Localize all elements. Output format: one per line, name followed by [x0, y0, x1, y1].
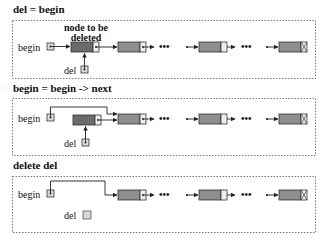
- panel-begin-equals-begin-next: begin = begin -> next begin del •••: [13, 82, 316, 156]
- panel-title: del = begin: [13, 3, 65, 15]
- del-label: del: [64, 138, 76, 149]
- node-to-delete: [71, 42, 99, 52]
- ellipsis: •••: [159, 113, 170, 124]
- annotation-deleted: deleted: [71, 32, 102, 43]
- last-node-null: [279, 42, 307, 52]
- node-to-delete: [73, 115, 101, 125]
- last-node-null: [279, 190, 307, 200]
- ellipsis: •••: [241, 189, 252, 200]
- panel-title: begin = begin -> next: [13, 82, 112, 94]
- panel-delete-del: delete del begin del ••• •••: [13, 159, 316, 233]
- last-node-null: [279, 114, 307, 124]
- list-node: [118, 42, 146, 52]
- freed-del-pointer-box: [83, 211, 91, 219]
- ellipsis: •••: [241, 41, 252, 52]
- begin-label: begin: [18, 42, 40, 53]
- begin-label: begin: [18, 189, 40, 200]
- linked-list-deletion-diagram: del = begin node to be deleted begin del: [0, 0, 326, 243]
- ellipsis: •••: [241, 113, 252, 124]
- panel-title: delete del: [13, 159, 57, 171]
- list-node: [199, 114, 227, 124]
- ellipsis: •••: [159, 189, 170, 200]
- begin-label: begin: [18, 113, 40, 124]
- list-node: [118, 190, 146, 200]
- ellipsis: •••: [159, 41, 170, 52]
- panel-border: [13, 177, 316, 233]
- panel-del-equals-begin: del = begin node to be deleted begin del: [13, 3, 316, 79]
- list-node: [199, 190, 227, 200]
- list-node: [118, 114, 146, 124]
- del-label: del: [64, 65, 76, 76]
- del-label: del: [64, 210, 76, 221]
- list-node: [199, 42, 227, 52]
